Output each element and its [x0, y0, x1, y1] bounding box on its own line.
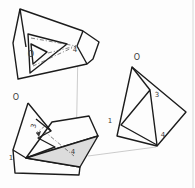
bottom-figure-left-edge: [13, 103, 28, 150]
figure-top-left: O 4: [13, 9, 99, 79]
vertex-label-bottom-1: 1: [9, 154, 13, 162]
connector-right4-to-bottom4: [88, 147, 156, 156]
vertex-label-bottom-3: 3: [30, 123, 39, 129]
origin-marker-right: O: [134, 53, 140, 62]
diagram-canvas: O 4 O 3 1 4 O 3 1: [0, 0, 195, 188]
vertex-label-right-1: 1: [108, 117, 112, 125]
origin-marker-top: O: [28, 50, 34, 59]
diagram-page: O 4 O 3 1 4 O 3 1: [0, 0, 195, 188]
origin-marker-bottom: O: [13, 93, 19, 102]
vertex-label-right-4: 4: [161, 131, 166, 139]
figure-right: O 3 1 4: [108, 53, 186, 146]
vertex-label-right-3: 3: [155, 91, 159, 99]
vertex-label-top-4: 4: [73, 46, 78, 54]
vertex-label-bottom-4: 4: [71, 148, 76, 156]
figure-bottom-left: O 3 1 4: [9, 93, 98, 175]
